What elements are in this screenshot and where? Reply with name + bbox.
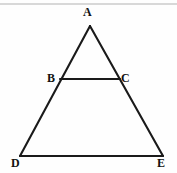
geometry-figure-canvas: A B C D E: [0, 0, 177, 173]
vertex-label-d: D: [11, 157, 20, 169]
vertex-label-e: E: [157, 157, 165, 169]
triangle-diagram-svg: [0, 0, 177, 173]
segment-AD: [20, 26, 90, 156]
segment-AE: [90, 26, 163, 156]
vertex-label-b: B: [47, 72, 55, 84]
vertex-label-a: A: [83, 6, 92, 18]
vertex-label-c: C: [121, 72, 130, 84]
